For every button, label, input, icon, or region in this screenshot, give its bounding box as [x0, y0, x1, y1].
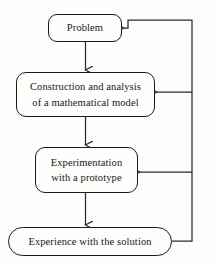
edge-experience-to-problem	[124, 20, 192, 241]
node-experiment-line-1: Experimentation	[51, 156, 122, 169]
node-experiment-line-2: with a prototype	[51, 171, 121, 184]
node-problem-line-1: Problem	[67, 21, 103, 34]
flowchart-canvas: Problem Construction and analysis of a m…	[0, 0, 213, 266]
node-model-line-1: Construction and analysis	[30, 80, 141, 93]
node-experience[interactable]: Experience with the solution	[8, 227, 172, 256]
node-experience-line-1: Experience with the solution	[28, 235, 151, 248]
node-model[interactable]: Construction and analysis of a mathemati…	[16, 72, 155, 117]
node-problem[interactable]: Problem	[48, 14, 122, 42]
node-model-line-2: of a mathematical model	[32, 96, 138, 109]
node-experiment[interactable]: Experimentation with a prototype	[35, 147, 138, 193]
